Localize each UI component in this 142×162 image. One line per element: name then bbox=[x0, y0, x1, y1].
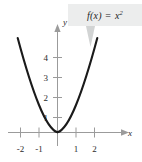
callout-leader-line bbox=[86, 26, 95, 47]
x-tick-label-1: 1 bbox=[74, 144, 79, 154]
y-tick-label-3: 3 bbox=[44, 73, 49, 83]
x-tick-label-2: 2 bbox=[92, 144, 97, 154]
x-tick-label--1: -1 bbox=[35, 144, 43, 154]
y-axis-label: y bbox=[62, 17, 67, 27]
parabola-figure: -2 -1 1 2 1 2 3 4 x y f(x) = x2 bbox=[0, 0, 142, 162]
x-tick-label--2: -2 bbox=[17, 144, 25, 154]
y-tick-label-2: 2 bbox=[44, 93, 49, 103]
function-callout-label: f(x) = x2 bbox=[87, 9, 123, 21]
y-tick-label-4: 4 bbox=[44, 53, 49, 63]
function-callout-box: f(x) = x2 bbox=[68, 4, 142, 26]
y-axis-arrow-icon bbox=[54, 24, 60, 32]
x-axis-label: x bbox=[127, 128, 132, 138]
